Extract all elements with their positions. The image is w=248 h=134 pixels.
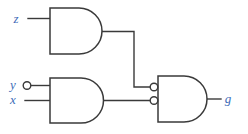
circuit-canvas: z y x g [0, 0, 248, 134]
output-label-g: g [225, 91, 232, 106]
and-gate-top [50, 8, 102, 54]
and-gate-bottom-left [50, 78, 104, 123]
input-label-y: y [8, 77, 16, 92]
inverter-bubble-right-gate-top [150, 83, 158, 91]
inverter-bubble-right-gate-bottom [150, 97, 158, 105]
logic-circuit-diagram: z y x g [0, 0, 248, 134]
and-gate-right [158, 76, 207, 122]
input-label-x: x [9, 92, 16, 107]
inverter-bubble-y-input [23, 82, 31, 90]
wire-and-top-output [102, 32, 150, 88]
input-label-z: z [12, 11, 18, 26]
